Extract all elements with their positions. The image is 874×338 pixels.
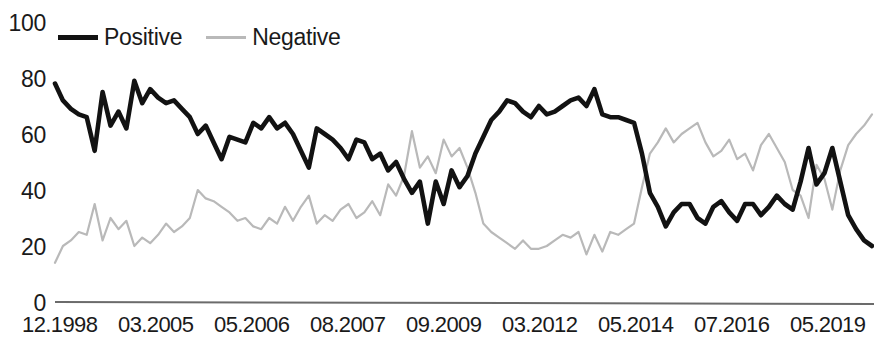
x-axis-tick-3: 08.2007	[310, 312, 385, 338]
series-line-negative	[55, 114, 872, 262]
line-chart: 100 80 60 40 20 0 Positive Negative 12.1…	[0, 0, 874, 338]
x-axis-tick-7: 07.2016	[694, 312, 769, 338]
x-axis-line	[55, 302, 874, 304]
x-axis-tick-4: 09.2009	[406, 312, 481, 338]
plot-area	[0, 0, 874, 338]
x-axis-tick-0: 12.1998	[22, 312, 97, 338]
x-axis-tick-6: 05.2014	[598, 312, 673, 338]
x-axis-tick-2: 05.2006	[214, 312, 289, 338]
x-axis-tick-1: 03.2005	[118, 312, 193, 338]
x-axis-tick-5: 03.2012	[502, 312, 577, 338]
x-axis-tick-8: 05.2019	[790, 312, 865, 338]
